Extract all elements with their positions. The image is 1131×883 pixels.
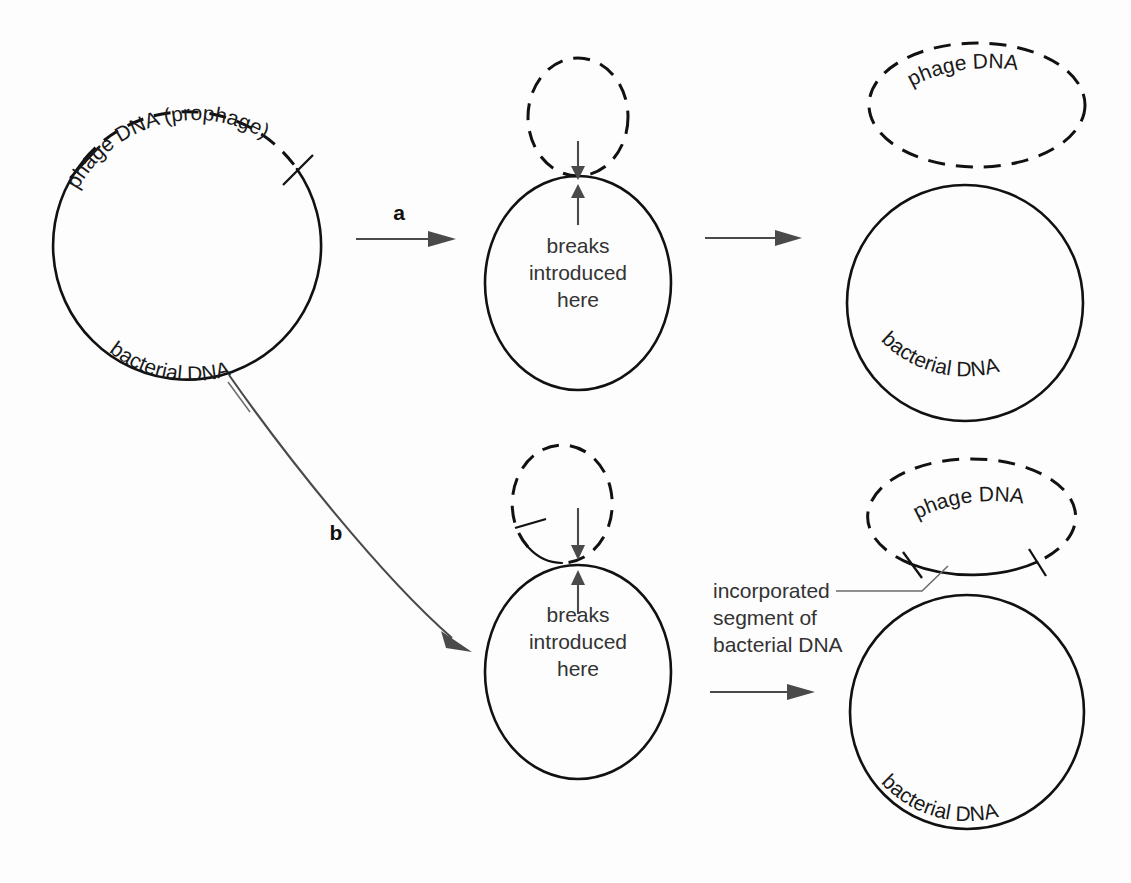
- pathway-b-label: b: [330, 521, 343, 544]
- incorporated-label-line2: segment of: [713, 606, 817, 629]
- result-b-arrow-head: [787, 684, 815, 700]
- pathway-a-arrow: a: [356, 201, 456, 247]
- breaks-label-b-line2: introduced: [529, 630, 627, 653]
- bacterial-dna-arc-1: [53, 160, 321, 380]
- label-bacterial-dna-1: bacterial DNA: [106, 336, 232, 385]
- label-bacterial-dna-2: bacterial DNA: [878, 327, 1001, 381]
- break-arrow-lower-b-head: [571, 570, 585, 585]
- phage-loop-b-solid-segment: [528, 547, 562, 563]
- breaks-label-b-line1: breaks: [546, 603, 609, 626]
- breaks-label-a-line2: introduced: [529, 261, 627, 284]
- label-phage-dna-br: phage DNA: [909, 482, 1026, 523]
- junction-tick-loop-b: [515, 519, 546, 528]
- incorporated-tick-left: [903, 552, 922, 578]
- panel-aberrant-excision-products: phage DNA incorporated segment of bacter…: [713, 459, 1084, 829]
- bacterial-dna-leader-1: [228, 382, 250, 412]
- panel-normal-excision-products: phage DNA bacterial DNA: [847, 43, 1085, 421]
- result-b-arrow: [710, 684, 815, 700]
- junction-tick-right-1: [283, 155, 313, 185]
- label-phage-dna-prophage: phage DNA (prophage): [61, 101, 274, 192]
- incorporated-segment-arc: [911, 562, 1037, 575]
- panel-integrated-prophage: phage DNA (prophage) bacterial DNA: [53, 101, 321, 412]
- pathway-a-arrow-head: [428, 231, 456, 247]
- break-arrow-lower-a-head: [571, 184, 585, 198]
- pathway-a-label: a: [393, 201, 405, 224]
- result-a-arrow: [705, 230, 802, 246]
- label-bacterial-dna-3: bacterial DNA: [878, 769, 1000, 825]
- pathway-b-arrow-line: [229, 375, 452, 638]
- incorporated-label-line3: bacterial DNA: [713, 633, 843, 656]
- breaks-label-b-line3: here: [557, 657, 599, 680]
- phage-excision-diagram: phage DNA (prophage) bacterial DNA a b: [0, 0, 1131, 883]
- pathway-b-arrow-head: [441, 631, 472, 652]
- incorporated-label-line1: incorporated: [713, 579, 830, 602]
- breaks-label-a-line1: breaks: [546, 234, 609, 257]
- breaks-label-a-line3: here: [557, 288, 599, 311]
- phage-loop-b-dashed: [512, 445, 612, 563]
- result-a-arrow-head: [775, 230, 802, 246]
- pathway-b-arrow: b: [229, 375, 472, 652]
- incorporated-tick-right: [1029, 549, 1046, 576]
- panel-normal-excision-intermediate: breaks introduced here: [485, 58, 671, 390]
- bacterial-circle-b: [850, 595, 1084, 829]
- break-arrow-upper-a-head: [571, 166, 585, 180]
- figure-canvas: phage DNA (prophage) bacterial DNA a b: [0, 0, 1131, 883]
- bacterial-circle-a: [847, 185, 1083, 421]
- label-phage-dna-tr: phage DNA: [903, 49, 1020, 90]
- panel-aberrant-excision-intermediate: breaks introduced here: [485, 445, 671, 779]
- phage-dna-ellipse-b-dashed: [868, 459, 1076, 564]
